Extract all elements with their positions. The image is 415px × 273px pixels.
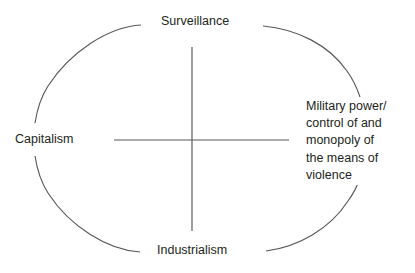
diagram-figure: Surveillance Capitalism Industrialism Mi… <box>0 0 415 273</box>
label-military-line-5: violence <box>306 167 398 184</box>
label-military-line-2: control of and <box>306 115 398 132</box>
label-military-power: Military power/ control of and monopoly … <box>303 97 401 185</box>
label-capitalism: Capitalism <box>12 131 76 147</box>
label-military-line-3: monopoly of <box>306 132 398 149</box>
label-industrialism: Industrialism <box>154 242 230 258</box>
ellipse-arc-bottom-right <box>266 180 359 251</box>
label-military-line-1: Military power/ <box>306 98 398 115</box>
label-military-line-4: the means of <box>306 150 398 167</box>
ellipse-arc-top-right <box>263 26 360 97</box>
ellipse-arc-bottom-left <box>35 156 140 252</box>
ellipse-arc-top-left <box>35 25 141 123</box>
quadrant-cross <box>114 47 289 231</box>
label-surveillance: Surveillance <box>158 13 232 29</box>
